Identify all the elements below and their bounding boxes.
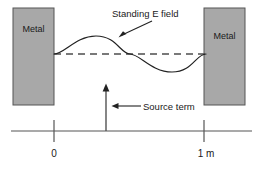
axis-tick-1m-label: 1 m: [198, 148, 215, 159]
metal-block-right-rect: [204, 8, 245, 105]
standing-wave-curve: [54, 36, 206, 72]
axis-tick-0: 0: [51, 120, 57, 159]
source-term-arrow: [103, 84, 110, 132]
standing-e-field-leader-line: [122, 21, 152, 35]
source-term-label: Source term: [143, 101, 195, 112]
source-term-arrowhead-left-icon: [112, 103, 119, 109]
standing-e-field-label: Standing E field: [112, 8, 179, 19]
axis-tick-0-label: 0: [51, 148, 57, 159]
figure-canvas: Metal Metal Standing E field Source term: [0, 0, 259, 170]
metal-block-right-label: Metal: [213, 31, 235, 41]
source-term-arrowhead-up-icon: [103, 84, 110, 92]
source-term-annotation: Source term: [112, 101, 195, 112]
axis-tick-1m: 1 m: [198, 120, 215, 159]
standing-e-field-figure: Metal Metal Standing E field Source term: [0, 0, 259, 170]
metal-block-left-rect: [13, 8, 54, 105]
metal-block-left: Metal: [13, 8, 54, 105]
metal-block-right: Metal: [204, 8, 245, 105]
metal-block-left-label: Metal: [22, 24, 44, 34]
standing-e-field-annotation: Standing E field: [112, 8, 179, 38]
standing-e-field-arrowhead-icon: [119, 31, 127, 37]
